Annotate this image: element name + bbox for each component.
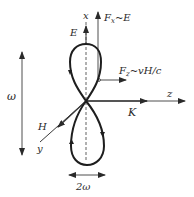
lower-loop-right-arrow: [100, 132, 105, 137]
magnetic-field-label: H: [37, 121, 47, 132]
lower-loop-left-arrow: [69, 139, 74, 144]
magnetic-field-arrow: [58, 101, 86, 127]
z-axis-label: z: [166, 88, 173, 99]
vertical-frequency-label: ω: [7, 90, 16, 103]
force-z-label: Fz~vH/c: [118, 65, 162, 78]
y-axis-label: y: [36, 143, 43, 154]
wave-vector-label: K: [127, 106, 137, 119]
trajectory-diagram: x E Fx~E Fz~vH/c z K H y ω 2ω: [0, 0, 194, 197]
force-x-label: Fx~E: [103, 12, 131, 25]
x-axis-label: x: [83, 10, 89, 21]
horizontal-frequency-label: 2ω: [75, 181, 91, 192]
upper-loop: [70, 44, 101, 101]
electric-field-label: E: [69, 27, 78, 38]
